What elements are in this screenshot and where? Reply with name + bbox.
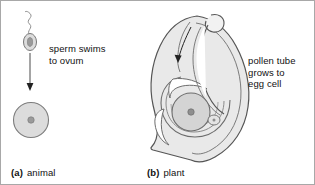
panel-name-a: animal [27,167,56,178]
pollen-grain [205,14,224,32]
plant-panel-graphic [1,1,315,185]
animal-caption: sperm swims to ovum [49,43,106,66]
panel-tag-b: (b) [147,167,159,178]
panel-tag-a: (a) [11,167,23,178]
egg-cell-nucleus [188,109,194,115]
panel-name-b: plant [163,167,184,178]
plant-caption: pollen tube grows to egg cell [248,55,296,90]
synergid-nucleus [213,119,216,122]
panel-label-animal: (a)animal [11,167,56,178]
panel-label-plant: (b)plant [147,167,185,178]
fertilization-figure: sperm swims to ovum pollen tube grows to… [0,0,315,185]
